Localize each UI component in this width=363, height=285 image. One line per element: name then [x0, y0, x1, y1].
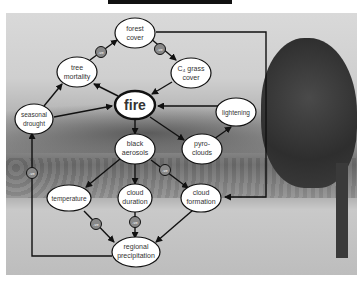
node-cloud-duration: cloud duration [118, 184, 152, 212]
neg-badge-temperature-precip: -ve [91, 219, 102, 230]
svg-text:cover: cover [126, 34, 144, 41]
svg-text:cloud: cloud [127, 189, 144, 196]
node-tree-mortality: tree mortality [57, 57, 97, 87]
svg-text:regional: regional [124, 243, 149, 251]
neg-badge-aerosols-formation: -ve [160, 165, 171, 176]
node-seasonal-drought: seasonal drought [15, 104, 53, 134]
node-black-aerosols: black aerosols [115, 134, 155, 164]
svg-text:duration: duration [122, 198, 147, 205]
neg-badge-forest-grass: -ve [155, 44, 166, 55]
svg-text:-ve: -ve [162, 168, 168, 173]
svg-text:clouds: clouds [192, 149, 213, 156]
svg-text:-ve: -ve [98, 50, 104, 55]
svg-text:black: black [127, 140, 144, 147]
svg-text:precipitation: precipitation [117, 252, 155, 260]
node-regional-precipitation: regional precipitation [112, 237, 160, 267]
svg-text:-ve: -ve [29, 171, 35, 176]
node-cloud-formation: cloud formation [181, 184, 221, 212]
node-c4-grass-cover: C₄ grass cover [171, 58, 211, 88]
svg-text:temperature: temperature [51, 195, 86, 203]
node-temperature: temperature [47, 185, 91, 211]
node-forest-cover: forest cover [115, 18, 155, 48]
neg-badge-duration-precip: -ve [130, 217, 141, 228]
neg-badge-mortality-forest: -ve [96, 47, 107, 58]
svg-text:aerosols: aerosols [122, 149, 149, 156]
svg-text:cloud: cloud [193, 189, 210, 196]
svg-text:-ve: -ve [93, 222, 99, 227]
node-lightening: lightening [216, 98, 256, 126]
svg-text:-ve: -ve [132, 220, 138, 225]
svg-text:cover: cover [182, 74, 200, 81]
svg-text:lightening: lightening [222, 109, 250, 117]
svg-text:C₄ grass: C₄ grass [178, 65, 205, 73]
svg-text:mortality: mortality [64, 73, 91, 81]
svg-text:tree: tree [71, 64, 83, 71]
neg-badge-precip-drought: -ve [27, 168, 38, 179]
svg-text:-ve: -ve [157, 47, 163, 52]
svg-text:drought: drought [23, 120, 45, 128]
feedback-diagram: -ve -ve -ve -ve -ve -ve forest cover [0, 0, 363, 285]
svg-text:pyro-: pyro- [194, 140, 211, 148]
svg-text:formation: formation [186, 198, 215, 205]
node-pyro-clouds: pyro- clouds [182, 134, 222, 164]
node-fire: fire [115, 91, 155, 119]
svg-text:fire: fire [124, 97, 146, 113]
svg-text:seasonal: seasonal [21, 111, 48, 118]
svg-text:forest: forest [126, 25, 144, 32]
